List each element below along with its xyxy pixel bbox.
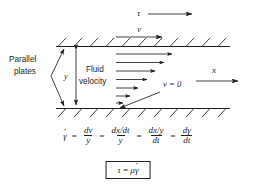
gamma-dot-symbol: γ — [135, 165, 139, 175]
bottom-plate — [56, 109, 230, 118]
plate-velocity-label: v — [137, 25, 141, 34]
equals-boxed: = — [123, 165, 128, 175]
gap-height-label: y — [64, 72, 68, 81]
equals-1: = — [71, 131, 78, 141]
shear-rate-equation: γ = dv y = dx/dt y = dx/y dt = dγ dt — [0, 126, 256, 146]
diagram-canvas: Parallel plates y Fluid velocity τ v v =… — [0, 0, 256, 195]
top-plate — [56, 38, 230, 47]
fluid-velocity-label-line2: velocity — [79, 77, 106, 86]
shear-stress-label: τ — [137, 9, 140, 18]
fraction-dxdt-over-y: dx/dt y — [110, 126, 132, 146]
equals-4: = — [170, 131, 177, 141]
fraction-dv-over-y: dv y — [82, 126, 95, 146]
shear-rate-symbol: γ — [63, 131, 67, 141]
parallel-plates-leaders — [51, 49, 64, 106]
zero-velocity-leader — [120, 92, 160, 108]
zero-velocity-label: v = 0 — [163, 80, 181, 89]
parallel-plates-label-line1: Parallel — [9, 55, 36, 64]
tau-symbol: τ — [118, 165, 121, 175]
fraction-dgamma-over-dt: dγ dt — [181, 126, 193, 146]
x-axis-label: x — [212, 66, 216, 75]
boxed-newtonian-equation: τ = μγ — [106, 161, 151, 179]
equals-2: = — [98, 131, 105, 141]
fluid-velocity-label-line1: Fluid — [86, 65, 104, 74]
fraction-dxy-over-dt: dx/y dt — [147, 126, 166, 146]
parallel-plates-label-line2: plates — [14, 67, 36, 76]
equals-3: = — [136, 131, 143, 141]
